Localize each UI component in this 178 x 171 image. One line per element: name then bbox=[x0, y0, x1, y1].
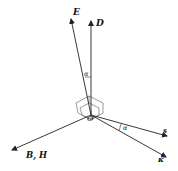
vector-kappa bbox=[91, 115, 166, 157]
label-alpha-upper: α bbox=[84, 70, 89, 78]
label-kappa: κ bbox=[157, 154, 164, 164]
label-D: D bbox=[95, 18, 104, 28]
vector-s bbox=[91, 115, 167, 136]
label-alpha-lower: α bbox=[123, 124, 128, 132]
label-origin: O bbox=[87, 114, 94, 123]
label-BH: B, H bbox=[25, 150, 48, 161]
label-E: E bbox=[72, 7, 80, 17]
angle-arc-lower bbox=[119, 124, 121, 131]
vector-BH bbox=[12, 115, 91, 150]
label-s: s bbox=[163, 126, 167, 135]
vector-diagram: E D B, H s κ O α α bbox=[0, 0, 178, 171]
